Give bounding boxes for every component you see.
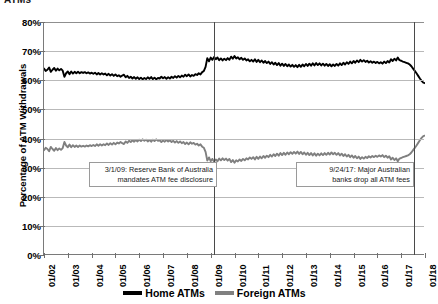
y-tick-label: 80% — [7, 17, 41, 28]
y-tick-mark — [40, 139, 45, 140]
y-tick-label: 20% — [7, 191, 41, 202]
legend-label: Foreign ATMs — [237, 287, 306, 299]
gridline — [44, 80, 424, 81]
x-tick-mark — [425, 253, 426, 258]
gridline — [44, 22, 424, 23]
annotation-line-1: 3/1/09: Reserve Bank of Australia — [93, 165, 213, 175]
gridline — [44, 139, 424, 140]
legend-swatch — [123, 291, 142, 295]
annotation-line-2: mandates ATM fee disclosure — [93, 175, 213, 185]
note-rba: 3/1/09: Reserve Bank of Australiamandate… — [89, 162, 217, 187]
event-line-rba-disclosure — [214, 22, 215, 255]
y-tick-mark — [40, 197, 45, 198]
annotation-line-2: banks drop all ATM fees — [300, 175, 410, 185]
gridline — [44, 109, 424, 110]
chart-legend: Home ATMsForeign ATMs — [0, 283, 429, 303]
annotation-line-1: 9/24/17: Major Australian — [300, 165, 410, 175]
y-tick-label: 0% — [7, 250, 41, 261]
y-tick-mark — [40, 51, 45, 52]
y-tick-mark — [40, 226, 45, 227]
gridline — [44, 51, 424, 52]
legend-item: Foreign ATMs — [215, 287, 306, 299]
y-tick-mark — [40, 168, 45, 169]
y-tick-mark — [40, 80, 45, 81]
y-tick-mark — [40, 109, 45, 110]
event-line-banks-drop-fees — [414, 22, 415, 255]
legend-swatch — [215, 291, 234, 295]
plot-area: 3/1/09: Reserve Bank of Australiamandate… — [43, 22, 424, 255]
y-tick-label: 70% — [7, 46, 41, 57]
series-line — [44, 136, 425, 163]
y-tick-label: 60% — [7, 75, 41, 86]
y-tick-label: 50% — [7, 104, 41, 115]
gridline — [44, 226, 424, 227]
y-axis-tick-labels: 80%70%60%50%40%30%20%10%0% — [5, 0, 41, 304]
note-banks: 9/24/17: Major Australianbanks drop all … — [296, 162, 414, 187]
gridline — [44, 197, 424, 198]
x-tick-label: 01/18 — [428, 264, 438, 287]
legend-label: Home ATMs — [145, 287, 205, 299]
y-tick-mark — [40, 22, 45, 23]
y-tick-label: 40% — [7, 133, 41, 144]
series-line — [44, 56, 425, 83]
y-tick-label: 10% — [7, 220, 41, 231]
y-tick-label: 30% — [7, 162, 41, 173]
legend-item: Home ATMs — [123, 287, 205, 299]
